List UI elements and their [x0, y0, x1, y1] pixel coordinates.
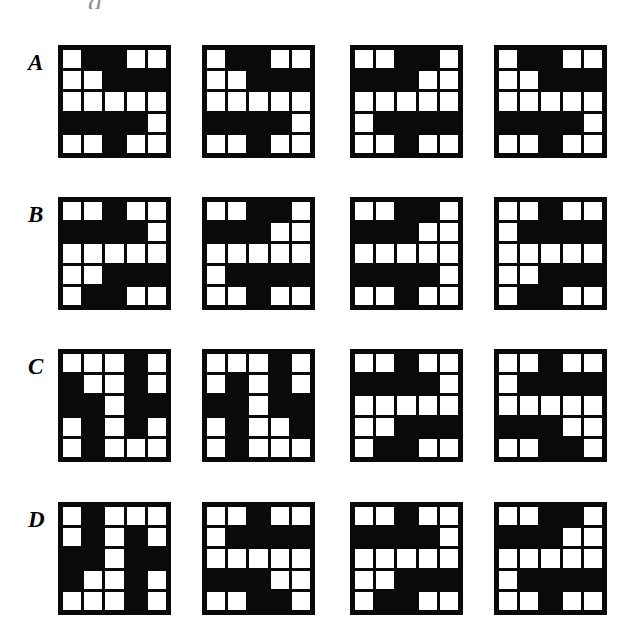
cell-r0-c2: [249, 507, 267, 525]
grid-c-3[interactable]: [350, 349, 463, 462]
cell-r4-c3: [419, 439, 437, 457]
cell-r4-c2: [541, 287, 559, 305]
cell-r2-c1: [376, 396, 394, 414]
cell-r0-c0: [207, 50, 225, 68]
cell-r4-c3: [563, 439, 581, 457]
cell-r2-c1: [376, 92, 394, 110]
grid-c-1[interactable]: [58, 349, 171, 462]
cell-r4-c2: [249, 439, 267, 457]
cell-r1-c3: [271, 528, 289, 546]
cell-r3-c1: [376, 114, 394, 132]
cell-r2-c1: [520, 549, 538, 567]
cell-r3-c0: [355, 114, 373, 132]
grid-a-4[interactable]: [494, 45, 607, 158]
cell-r3-c4: [440, 418, 458, 436]
cell-r4-c1: [228, 439, 246, 457]
cell-r0-c0: [499, 50, 517, 68]
cell-r2-c3: [127, 549, 145, 567]
grid-a-1[interactable]: [58, 45, 171, 158]
cell-r4-c1: [376, 592, 394, 610]
cell-r2-c2: [249, 549, 267, 567]
cell-r4-c0: [207, 439, 225, 457]
cell-r3-c2: [249, 266, 267, 284]
cell-r0-c2: [397, 354, 415, 372]
cell-r2-c1: [228, 549, 246, 567]
grid-c-4[interactable]: [494, 349, 607, 462]
grid-a-2[interactable]: [202, 45, 315, 158]
cell-r1-c2: [541, 375, 559, 393]
grid-b-2[interactable]: [202, 197, 315, 310]
cell-r3-c4: [440, 266, 458, 284]
cell-r3-c3: [271, 114, 289, 132]
cell-r1-c2: [105, 71, 123, 89]
cell-r0-c3: [563, 507, 581, 525]
cell-r4-c1: [84, 287, 102, 305]
cell-r0-c3: [271, 202, 289, 220]
cell-r1-c2: [541, 223, 559, 241]
cell-r3-c0: [355, 418, 373, 436]
cell-r1-c1: [520, 223, 538, 241]
cell-r1-c2: [249, 528, 267, 546]
cell-r2-c4: [584, 549, 602, 567]
cell-r2-c1: [84, 244, 102, 262]
cell-r0-c1: [84, 507, 102, 525]
grid-b-4[interactable]: [494, 197, 607, 310]
cell-r2-c3: [563, 244, 581, 262]
grid-b-1[interactable]: [58, 197, 171, 310]
cell-r1-c0: [207, 71, 225, 89]
cell-r4-c2: [105, 592, 123, 610]
cell-r1-c3: [563, 528, 581, 546]
cell-r2-c2: [397, 92, 415, 110]
grid-d-4[interactable]: [494, 502, 607, 615]
cell-r2-c4: [440, 396, 458, 414]
cell-r3-c3: [419, 571, 437, 589]
cell-r4-c1: [520, 439, 538, 457]
grid-a-3[interactable]: [350, 45, 463, 158]
cell-r1-c3: [127, 528, 145, 546]
cell-r3-c0: [355, 571, 373, 589]
cell-r4-c4: [584, 135, 602, 153]
cell-r3-c1: [84, 418, 102, 436]
cell-r3-c0: [207, 266, 225, 284]
cell-r0-c0: [355, 507, 373, 525]
cell-r4-c2: [249, 135, 267, 153]
cell-r1-c1: [228, 528, 246, 546]
cell-r1-c4: [148, 375, 166, 393]
cell-r0-c3: [271, 354, 289, 372]
cell-r3-c4: [440, 114, 458, 132]
row-label-b: B: [28, 203, 56, 226]
cell-r3-c3: [563, 418, 581, 436]
cell-r3-c0: [63, 571, 81, 589]
cell-r4-c4: [148, 287, 166, 305]
grid-d-3[interactable]: [350, 502, 463, 615]
cell-r0-c3: [563, 354, 581, 372]
cell-r1-c2: [397, 528, 415, 546]
cell-r3-c2: [541, 114, 559, 132]
cell-r0-c0: [207, 202, 225, 220]
cell-r0-c1: [84, 202, 102, 220]
grid-d-1[interactable]: [58, 502, 171, 615]
cell-r4-c4: [292, 439, 310, 457]
cell-r3-c2: [105, 418, 123, 436]
cell-r2-c2: [397, 396, 415, 414]
cell-r4-c4: [440, 592, 458, 610]
cell-r1-c0: [355, 223, 373, 241]
cell-r3-c4: [584, 571, 602, 589]
cell-r4-c3: [127, 439, 145, 457]
cell-r0-c1: [520, 507, 538, 525]
cell-r2-c2: [249, 396, 267, 414]
grid-d-2[interactable]: [202, 502, 315, 615]
cell-r0-c2: [541, 354, 559, 372]
cell-r0-c3: [127, 354, 145, 372]
cell-r2-c3: [271, 92, 289, 110]
cell-r2-c2: [105, 396, 123, 414]
cell-r1-c0: [207, 223, 225, 241]
cell-r0-c3: [127, 50, 145, 68]
cell-r2-c0: [499, 549, 517, 567]
cell-r0-c1: [376, 354, 394, 372]
grid-b-3[interactable]: [350, 197, 463, 310]
cell-r1-c4: [584, 223, 602, 241]
cell-r4-c4: [440, 287, 458, 305]
cell-r1-c2: [105, 528, 123, 546]
grid-c-2[interactable]: [202, 349, 315, 462]
